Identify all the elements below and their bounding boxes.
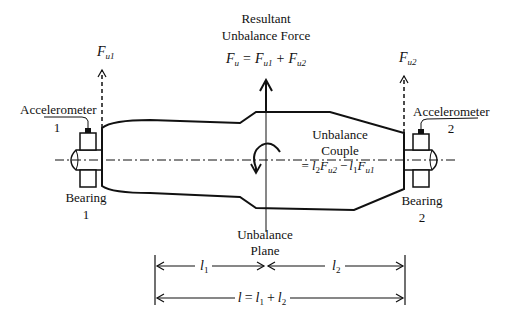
resultant-title-line2: Unbalance Force — [222, 28, 311, 43]
couple-rotation-icon — [254, 144, 280, 172]
bearing-1-number: 1 — [83, 207, 90, 222]
bearing-2 — [404, 118, 478, 187]
plane-label-line2: Plane — [251, 243, 280, 258]
accelerometer-1-number: 1 — [54, 120, 61, 135]
accelerometer-1-label: Accelerometer — [20, 102, 97, 117]
plane-label-line1: Unbalance — [237, 227, 293, 242]
force-u2-label: Fu2 — [398, 50, 417, 67]
resultant-title-line1: Resultant — [241, 11, 290, 26]
bearing-1-bottom-block — [80, 170, 96, 187]
force-u1-label: Fu1 — [96, 44, 115, 61]
bearing-1-top-block — [80, 133, 96, 150]
dim-total-label: l=l1+l2 — [238, 290, 286, 307]
bearing-2-number: 2 — [419, 210, 426, 225]
bearing-2-bottom-block — [413, 170, 429, 187]
couple-equation: =l2Fu2−l1Fu1 — [302, 158, 375, 175]
accelerometer-1-sensor — [85, 128, 91, 133]
dim-l1-label: l1 — [200, 258, 208, 275]
accelerometer-2-label: Accelerometer — [413, 104, 490, 119]
bearing-1-label: Bearing — [65, 190, 107, 205]
bearing-1 — [44, 117, 102, 187]
accelerometer-2-sensor — [418, 129, 424, 134]
resultant-equation: Fu=Fu1+Fu2 — [225, 51, 307, 68]
accelerometer-1-leader — [44, 117, 88, 128]
dim-l2-label: l2 — [332, 258, 340, 275]
couple-label-line1: Unbalance — [312, 127, 368, 142]
rotor-unbalance-diagram: Resultant Unbalance Force Fu=Fu1+Fu2 Fu1… — [0, 0, 508, 325]
bearing-2-top-block — [413, 134, 429, 150]
couple-label-line2: Couple — [321, 143, 359, 158]
accelerometer-2-number: 2 — [448, 121, 455, 136]
bearing-2-label: Bearing — [401, 193, 443, 208]
